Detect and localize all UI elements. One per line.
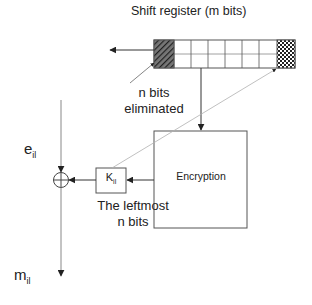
key-label: Kil [96, 171, 126, 185]
shift-register-title: Shift register (m bits) [0, 4, 312, 18]
diagram-canvas [0, 0, 312, 305]
input-variable-label: eil [24, 140, 36, 160]
encryption-label: Encryption [155, 170, 247, 182]
eliminated-bits-cell [154, 40, 174, 68]
eliminated-pointer [130, 63, 154, 83]
output-variable-label: mil [14, 266, 31, 286]
incoming-bits-cell [277, 40, 295, 68]
leftmost-bits-label: The leftmost n bits [92, 198, 174, 230]
shift-register [154, 40, 295, 68]
eliminated-label: n bits eliminated [110, 85, 198, 117]
